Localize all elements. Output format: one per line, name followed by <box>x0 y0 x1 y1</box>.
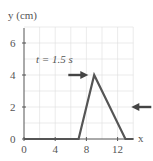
y-tick-label: 0 <box>10 133 16 145</box>
y-tick-label: 4 <box>10 69 16 81</box>
x-tick-label: 12 <box>112 143 123 155</box>
time-annotation: t = 1.5 s <box>36 53 73 65</box>
x-axis-label: x <box>138 132 144 144</box>
y-tick-label: 2 <box>10 101 16 113</box>
x-tick-label: 4 <box>52 143 58 155</box>
pulse-chart: 0246 04812 y (cm) x t = 1.5 s <box>0 0 153 161</box>
x-tick-label: 8 <box>84 143 90 155</box>
y-axis-label: y (cm) <box>8 9 37 22</box>
x-tick-label: 0 <box>21 143 27 155</box>
y-tick-label: 6 <box>10 37 16 49</box>
